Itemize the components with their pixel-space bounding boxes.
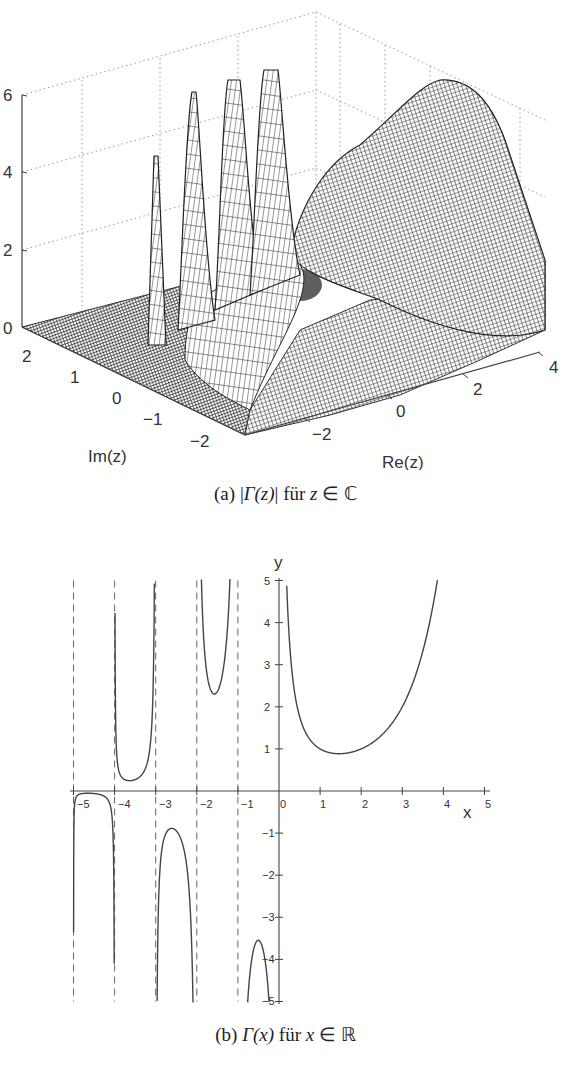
y-tick-5: 5 <box>264 575 270 587</box>
caption-b: (b) Γ(x) für x ∈ ℝ <box>0 1023 571 1046</box>
gamma-curve-branch <box>248 940 269 1002</box>
re-tick-4: 4 <box>549 358 558 377</box>
x-tick-neg3: −3 <box>159 798 172 810</box>
caption-b-in: ∈ <box>319 1024 336 1045</box>
z-tick-0: 0 <box>3 319 12 338</box>
x-tick-neg5: −5 <box>77 798 90 810</box>
surface-plot: 6 4 2 0 2 1 0 −1 −2 Im(z) −2 0 2 4 <box>0 0 571 470</box>
surface-plot-panel: 6 4 2 0 2 1 0 −1 −2 Im(z) −2 0 2 4 <box>0 0 571 470</box>
caption-b-var: x <box>306 1024 314 1045</box>
re-tick-neg2: −2 <box>312 425 331 444</box>
gamma-curve-branch <box>201 579 230 694</box>
z-tick-4: 4 <box>3 163 12 182</box>
y-tick-1: 1 <box>264 743 270 755</box>
gamma-curve-branch <box>74 793 115 964</box>
im-tick-1: 1 <box>70 368 79 387</box>
x-tick-0: 0 <box>280 798 286 810</box>
x-tick-neg4: −4 <box>118 798 131 810</box>
caption-a-gamma: Γ <box>244 483 255 504</box>
caption-b-gamma: Γ <box>242 1024 253 1045</box>
y-tick-neg3: −3 <box>262 911 275 923</box>
gamma-curve-branch <box>287 580 438 754</box>
z-tick-2: 2 <box>3 241 12 260</box>
caption-a-word: für <box>283 483 305 504</box>
caption-a: (a) |Γ(z)| für z ∈ ℂ <box>0 482 571 505</box>
caption-a-label: (a) <box>214 483 235 504</box>
plot-axes <box>70 578 490 1004</box>
line-plot: −5 −4 −3 −2 −1 0 1 2 3 4 5 x y 5 4 3 2 1… <box>0 540 571 1020</box>
line-plot-panel: −5 −4 −3 −2 −1 0 1 2 3 4 5 x y 5 4 3 2 1… <box>0 540 571 1020</box>
y-tick-3: 3 <box>264 659 270 671</box>
caption-a-var: z <box>310 483 317 504</box>
x-tick-1: 1 <box>320 798 326 810</box>
re-tick-0: 0 <box>396 402 405 421</box>
x-tick-neg2: −2 <box>200 798 213 810</box>
y-axis-label: y <box>274 553 283 572</box>
y-tick-neg4: −4 <box>262 953 275 965</box>
caption-b-word: für <box>279 1024 301 1045</box>
x-tick-neg1: −1 <box>241 798 254 810</box>
y-tick-neg1: −1 <box>262 827 275 839</box>
z-tick-6: 6 <box>3 86 12 105</box>
x-tick-3: 3 <box>403 798 409 810</box>
x-tick-labels: −5 −4 −3 −2 −1 0 1 2 3 4 5 <box>77 798 491 810</box>
gamma-curve-branch <box>115 583 154 780</box>
im-tick-2: 2 <box>22 347 31 366</box>
x-axis-label: x <box>463 803 472 822</box>
re-axis-label: Re(z) <box>382 453 424 470</box>
im-tick-0: 0 <box>112 389 121 408</box>
caption-b-set: ℝ <box>341 1024 356 1045</box>
caption-b-label: (b) <box>215 1024 237 1045</box>
y-tick-neg5: −5 <box>262 995 275 1007</box>
caption-a-abs-right: | <box>275 483 279 504</box>
z-axis: 6 4 2 0 <box>3 86 27 338</box>
x-tick-4: 4 <box>444 798 450 810</box>
im-tick-neg2: −2 <box>190 432 209 451</box>
x-tick-5: 5 <box>485 798 491 810</box>
caption-a-set: ℂ <box>344 483 357 504</box>
caption-a-in: ∈ <box>322 483 339 504</box>
caption-b-arg: (x) <box>253 1024 274 1045</box>
y-tick-4: 4 <box>264 617 270 629</box>
x-tick-2: 2 <box>362 798 368 810</box>
re-tick-2: 2 <box>473 380 482 399</box>
caption-a-arg: (z) <box>255 483 275 504</box>
y-tick-2: 2 <box>264 701 270 713</box>
y-tick-neg2: −2 <box>262 869 275 881</box>
gamma-curve-branch <box>157 828 193 1002</box>
im-axis-label: Im(z) <box>88 447 127 466</box>
surface-growth-hump <box>290 80 545 336</box>
im-tick-neg1: −1 <box>143 410 162 429</box>
